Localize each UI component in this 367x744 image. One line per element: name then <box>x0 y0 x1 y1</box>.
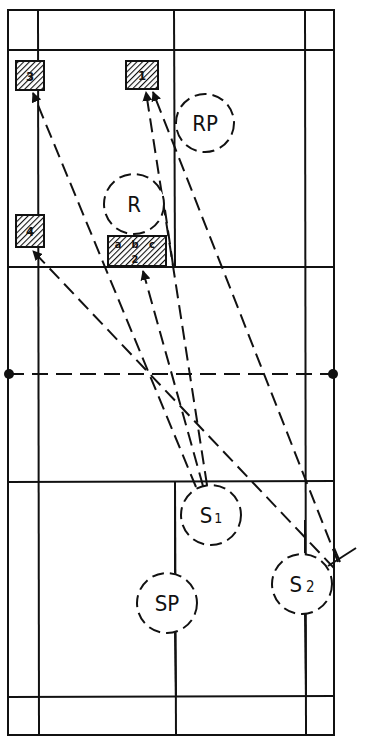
path-s1-to-3 <box>33 93 196 487</box>
target-2-label: 2 <box>132 253 139 266</box>
bottom-long-service-line <box>8 696 334 697</box>
path-s2-to-1 <box>153 92 338 562</box>
player-sp: SP <box>137 573 197 633</box>
top-center-line <box>174 10 175 267</box>
player-s2: S2 <box>272 554 332 614</box>
left-singles-sideline <box>38 10 39 735</box>
target-2b-label: b <box>131 238 138 251</box>
target-3-label: 3 <box>26 69 34 84</box>
target-zone-3: 3 <box>16 61 44 90</box>
player-r-label: R <box>127 192 141 217</box>
target-zone-1: 1 <box>126 61 158 89</box>
target-2a-label: a <box>115 238 122 251</box>
target-1-label: 1 <box>138 68 146 83</box>
bottom-short-service-line <box>8 481 334 482</box>
target-zone-4: 4 <box>16 215 44 247</box>
s2-serve-marker <box>328 548 356 566</box>
target-zone-2: a b c 2 <box>108 236 166 266</box>
player-s1: S1 <box>181 485 241 545</box>
player-rp: RP <box>176 94 234 152</box>
net-post-right <box>328 369 338 379</box>
player-rp-label: RP <box>192 111 218 136</box>
badminton-court-diagram: 3 1 4 a b c 2 RP R S1 <box>0 0 367 744</box>
player-r: R <box>104 174 164 234</box>
target-2c-label: c <box>149 238 155 251</box>
net-post-left <box>4 369 14 379</box>
target-4-label: 4 <box>26 224 34 239</box>
player-sp-label: SP <box>155 591 180 616</box>
flight-paths <box>33 92 338 568</box>
